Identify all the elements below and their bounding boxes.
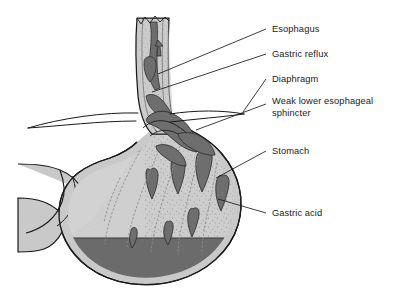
gastric-acid-pool [58, 238, 242, 295]
stomach-mucosa [55, 115, 255, 295]
label-esophagus: Esophagus [272, 24, 319, 36]
label-gastric-acid: Gastric acid [272, 208, 322, 220]
label-stomach: Stomach [272, 146, 309, 158]
figure-container: Esophagus Gastric reflux Diaphragm Weak … [0, 0, 400, 297]
label-gastric-reflux: Gastric reflux [272, 49, 328, 61]
label-weak-lower-esophageal-sphincter: Weak lower esophageal sphincter [272, 96, 373, 119]
leader-diaphragm [243, 79, 266, 112]
gerd-anatomy-illustration [0, 0, 400, 297]
leader-les [196, 104, 266, 130]
diaphragm [28, 111, 244, 128]
label-diaphragm: Diaphragm [272, 74, 318, 86]
stomach-structure [18, 115, 255, 295]
leader-esophagus [158, 29, 266, 74]
